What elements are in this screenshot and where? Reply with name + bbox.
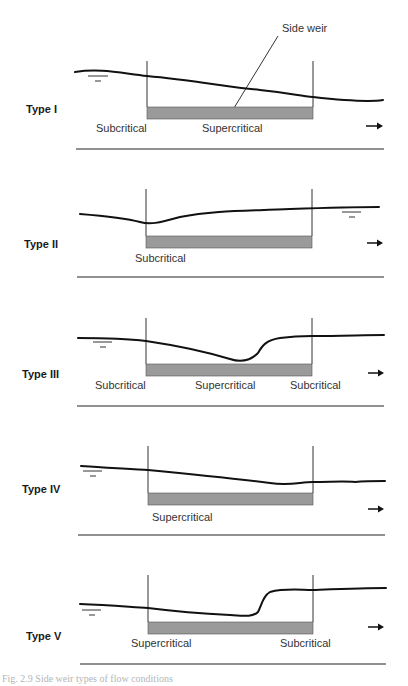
flow-direction-arrow-icon — [368, 370, 384, 377]
panel-type-2: Type II Subcritical — [24, 189, 384, 277]
weir-crest — [148, 622, 313, 634]
regime-label: Supercritical — [152, 511, 213, 523]
regime-label-downstream: Subcritical — [280, 637, 331, 649]
water-surface-profile — [81, 466, 385, 484]
regime-label-downstream: Subcritical — [290, 379, 341, 391]
type-label: Type V — [26, 630, 62, 642]
side-weir-flow-diagram: Side weir Type I Subcritical Supercritic… — [0, 0, 408, 686]
type-label: Type III — [22, 368, 59, 380]
side-weir-leader-line — [234, 36, 278, 108]
panel-type-4: Type IV Supercritical — [22, 446, 385, 535]
weir-crest — [146, 236, 312, 248]
panel-type-5: Type V Supercritical Subcritical — [26, 575, 386, 664]
regime-label-weir: Supercritical — [195, 379, 256, 391]
weir-crest — [148, 493, 313, 505]
type-label: Type I — [26, 103, 57, 115]
panel-type-3: Type III Subcritical Supercritical Subcr… — [22, 318, 384, 406]
regime-label-weir: Supercritical — [131, 637, 192, 649]
weir-crest — [147, 107, 313, 119]
panel-type-1: Side weir Type I Subcritical Supercritic… — [26, 22, 384, 149]
water-surface-profile — [78, 335, 384, 361]
regime-label-upstream: Subcritical — [95, 379, 146, 391]
regime-label-weir: Supercritical — [202, 122, 263, 134]
side-weir-callout-label: Side weir — [282, 22, 328, 34]
water-surface-profile — [80, 588, 386, 616]
flow-direction-arrow-icon — [366, 123, 383, 130]
type-label: Type II — [24, 238, 58, 250]
type-label: Type IV — [22, 483, 61, 495]
weir-crest — [146, 364, 312, 376]
regime-label-upstream: Subcritical — [96, 122, 147, 134]
figure-caption: Fig. 2.9 Side weir types of flow conditi… — [2, 673, 173, 684]
water-surface-profile — [80, 207, 379, 223]
water-surface-profile — [75, 71, 383, 101]
regime-label: Subcritical — [135, 252, 186, 264]
flow-direction-arrow-icon — [367, 240, 383, 247]
flow-direction-arrow-icon — [368, 624, 384, 631]
flow-direction-arrow-icon — [368, 506, 384, 513]
